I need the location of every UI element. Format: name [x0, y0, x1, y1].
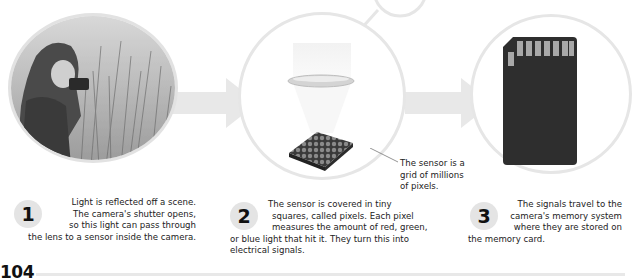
text-line: The sensor is covered in tiny — [230, 199, 428, 211]
text-line: electrical signals. — [230, 245, 428, 257]
photographer-photo — [11, 16, 178, 163]
text-line: or blue light that hit it. They turn thi… — [230, 234, 428, 246]
text-line: the lens to a sensor inside the camera. — [16, 232, 196, 244]
text-line: The camera's shutter opens, — [16, 209, 196, 221]
text-line: where they are stored on — [472, 222, 622, 234]
step-3-text: The signals travel to the camera's memor… — [472, 199, 622, 245]
step-3-image-circle — [470, 14, 632, 174]
text-line: so this light can pass through — [16, 220, 196, 232]
step-1-text: Light is reflected off a scene. The came… — [16, 197, 196, 243]
footer-rule — [36, 273, 625, 276]
step-2-text: The sensor is covered in tiny squares, c… — [230, 199, 428, 257]
memory-card-icon — [473, 17, 629, 173]
text-line: Light is reflected off a scene. — [16, 197, 196, 209]
sensor-callout: The sensor is a grid of millions of pixe… — [400, 158, 465, 193]
pixel-sensor — [289, 132, 353, 167]
callout-leader-line — [370, 148, 400, 168]
text-line: The signals travel to the — [472, 199, 622, 211]
text-line: measures the amount of red, green, — [230, 222, 428, 234]
callout-line: grid of millions — [400, 170, 465, 182]
page-number: 104 — [0, 262, 34, 278]
callout-line: The sensor is a — [400, 158, 465, 170]
step-1-image-circle — [8, 13, 178, 163]
callout-line: of pixels. — [400, 181, 465, 193]
text-line: camera's memory system — [472, 211, 622, 223]
text-line: the memory card. — [468, 234, 622, 246]
text-line: squares, called pixels. Each pixel — [230, 211, 428, 223]
